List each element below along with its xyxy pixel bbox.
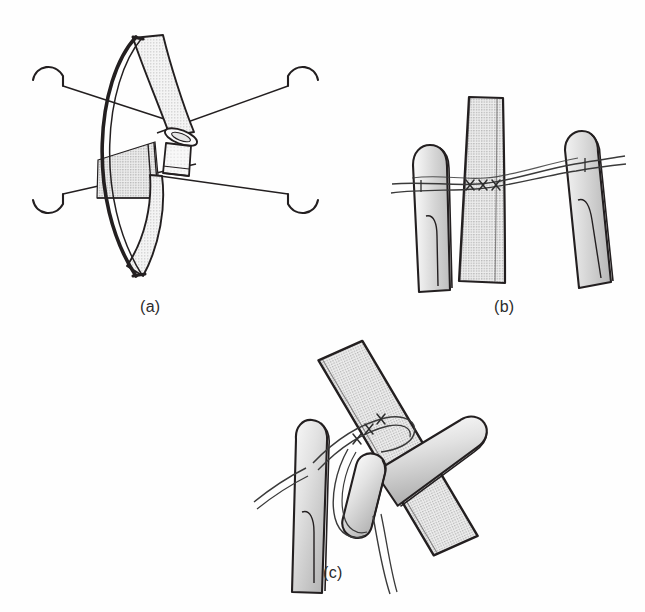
panel-c-group [254, 330, 497, 594]
forceps-tip-left [413, 145, 452, 292]
forceps-tip-right [565, 131, 613, 288]
vessel-stub-c [339, 450, 389, 541]
figure-root: (a) (b) (c) [0, 0, 645, 612]
panel-b-group [391, 97, 626, 292]
vessel-coupler [163, 143, 191, 176]
surgical-figure-svg [0, 0, 645, 612]
panel-a-group [33, 35, 318, 276]
panel-caption-a: (a) [140, 298, 160, 316]
panel-caption-c: (c) [323, 564, 343, 582]
suture-needle-lower-right [160, 176, 318, 213]
vessel-limb-upper [133, 35, 199, 149]
panel-caption-b: (b) [494, 298, 514, 316]
